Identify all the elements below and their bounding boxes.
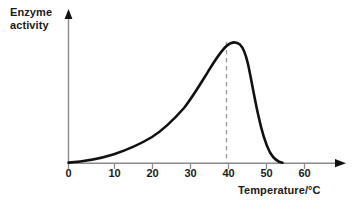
y-axis-title-line2: activity: [10, 19, 49, 31]
x-axis-title: Temperature/°C: [238, 184, 321, 196]
x-tick-label-30: 30: [178, 167, 204, 179]
x-tick-label-0: 0: [56, 167, 82, 179]
y-axis-title-line1: Enzyme: [10, 6, 52, 18]
y-axis-arrowhead: [65, 9, 73, 19]
y-axis-title: Enzymeactivity: [10, 6, 52, 32]
enzyme-activity-chart: Enzymeactivity Temperature/°C 0 10 20 30…: [0, 0, 357, 206]
enzyme-activity-curve: [69, 42, 283, 162]
x-tick-label-40: 40: [216, 167, 242, 179]
x-axis-arrowhead: [335, 159, 346, 167]
x-tick-label-50: 50: [254, 167, 280, 179]
x-tick-label-10: 10: [102, 167, 128, 179]
x-tick-label-20: 20: [140, 167, 166, 179]
x-tick-label-60: 60: [292, 167, 318, 179]
